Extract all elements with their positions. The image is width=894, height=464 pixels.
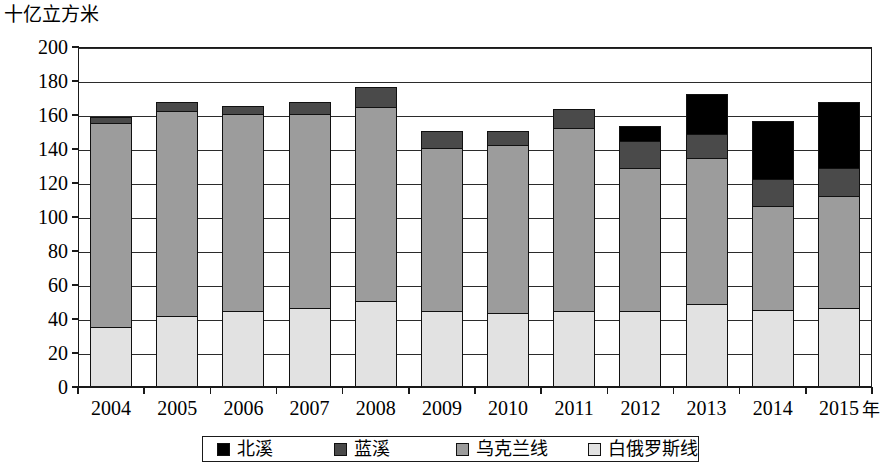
y-axis-tick-label: 160 [6, 105, 68, 125]
bar-group[interactable] [752, 47, 794, 387]
legend-item[interactable]: 乌克兰线 [456, 440, 548, 458]
stacked-bar-chart: 十亿立方米 020406080100120140160180200 200420… [0, 0, 894, 464]
bar-segment[interactable] [421, 148, 463, 312]
bar-segment[interactable] [222, 106, 264, 116]
bar-segment[interactable] [818, 308, 860, 387]
bar-group[interactable] [289, 47, 331, 387]
bar-segment[interactable] [686, 134, 728, 159]
bar-group[interactable] [355, 47, 397, 387]
x-axis-tick-mark [77, 387, 78, 394]
legend-item[interactable]: 蓝溪 [334, 440, 390, 458]
bar-segment[interactable] [289, 308, 331, 387]
bar-group[interactable] [686, 47, 728, 387]
bar-group[interactable] [619, 47, 661, 387]
bar-segment[interactable] [619, 126, 661, 142]
bar-segment[interactable] [818, 168, 860, 196]
bar-segment[interactable] [90, 327, 132, 388]
bar-segment[interactable] [686, 158, 728, 305]
bar-group[interactable] [421, 47, 463, 387]
bar-segment[interactable] [752, 121, 794, 180]
bar-segment[interactable] [752, 179, 794, 207]
bar-group[interactable] [487, 47, 529, 387]
bar-group[interactable] [156, 47, 198, 387]
x-axis-tick-label: 2008 [340, 396, 412, 420]
bar-segment[interactable] [686, 304, 728, 387]
x-axis-tick-label: 2005 [141, 396, 213, 420]
x-axis-tick-mark [342, 387, 343, 394]
x-axis-tick-mark [540, 387, 541, 394]
bar-segment[interactable] [421, 131, 463, 149]
bar-segment[interactable] [355, 87, 397, 108]
x-axis-tick-mark [607, 387, 608, 394]
bar-segment[interactable] [222, 114, 264, 312]
x-axis-tick-mark [739, 387, 740, 394]
y-axis-tick-label: 60 [6, 275, 68, 295]
y-axis-tick-label: 0 [6, 377, 68, 397]
x-axis-tick-label: 2004 [75, 396, 147, 420]
bar-segment[interactable] [619, 141, 661, 169]
x-axis-tick-label: 2014 [737, 396, 809, 420]
bar-segment[interactable] [686, 94, 728, 136]
legend-label: 蓝溪 [354, 440, 390, 458]
legend-swatch-icon [588, 443, 601, 456]
legend-swatch-icon [456, 443, 469, 456]
bar-segment[interactable] [752, 206, 794, 311]
bars-layer [78, 47, 872, 387]
bar-segment[interactable] [553, 109, 595, 129]
bar-segment[interactable] [90, 117, 132, 123]
x-axis-tick-mark [276, 387, 277, 394]
legend-item[interactable]: 白俄罗斯线 [588, 440, 698, 458]
bar-segment[interactable] [553, 311, 595, 387]
x-axis-tick-mark [871, 387, 872, 394]
bar-segment[interactable] [818, 102, 860, 169]
legend-label: 乌克兰线 [476, 440, 548, 458]
bar-segment[interactable] [289, 102, 331, 115]
bar-group[interactable] [818, 47, 860, 387]
bar-segment[interactable] [355, 301, 397, 387]
bar-segment[interactable] [487, 313, 529, 387]
x-axis-unit-label: 年 [862, 399, 880, 421]
legend-label: 白俄罗斯线 [608, 440, 698, 458]
x-axis-tick-mark [673, 387, 674, 394]
y-axis-tick-label: 20 [6, 343, 68, 363]
bar-segment[interactable] [752, 310, 794, 388]
bar-segment[interactable] [156, 316, 198, 387]
chart-legend: 北溪蓝溪乌克兰线白俄罗斯线 [202, 436, 699, 462]
x-axis-tick-label: 2009 [406, 396, 478, 420]
bar-segment[interactable] [487, 131, 529, 146]
bar-segment[interactable] [355, 107, 397, 302]
bar-segment[interactable] [487, 145, 529, 314]
bar-segment[interactable] [818, 196, 860, 309]
x-axis-tick-label: 2006 [207, 396, 279, 420]
y-axis-tick-label: 100 [6, 207, 68, 227]
bar-segment[interactable] [90, 123, 132, 328]
x-axis-tick-label: 2010 [472, 396, 544, 420]
bar-group[interactable] [90, 47, 132, 387]
legend-swatch-icon [334, 443, 347, 456]
x-axis-tick-mark [143, 387, 144, 394]
x-axis-tick-mark [474, 387, 475, 394]
x-axis-tick-mark [408, 387, 409, 394]
bar-segment[interactable] [619, 311, 661, 387]
y-axis-tick-label: 40 [6, 309, 68, 329]
y-axis-tick-label: 80 [6, 241, 68, 261]
bar-segment[interactable] [421, 311, 463, 387]
bar-group[interactable] [553, 47, 595, 387]
bar-segment[interactable] [619, 168, 661, 312]
legend-item[interactable]: 北溪 [217, 440, 273, 458]
x-axis-tick-label: 2011 [538, 396, 610, 420]
bar-segment[interactable] [553, 128, 595, 313]
y-axis-tick-label: 120 [6, 173, 68, 193]
x-axis-tick-mark [210, 387, 211, 394]
bar-segment[interactable] [156, 111, 198, 318]
x-axis-tick-mark [805, 387, 806, 394]
bar-segment[interactable] [289, 114, 331, 309]
bar-segment[interactable] [222, 311, 264, 387]
y-axis-tick-label: 140 [6, 139, 68, 159]
x-axis-tick-label: 2012 [604, 396, 676, 420]
legend-swatch-icon [217, 443, 230, 456]
bar-group[interactable] [222, 47, 264, 387]
x-axis-tick-label: 2013 [671, 396, 743, 420]
y-axis-tick-label: 180 [6, 71, 68, 91]
bar-segment[interactable] [156, 102, 198, 112]
